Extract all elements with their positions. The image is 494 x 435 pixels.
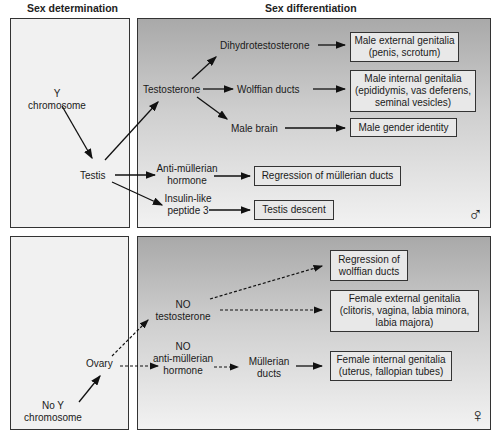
box-testis-descent: Testis descent <box>254 200 334 220</box>
dht-label: Dihydrotestosterone <box>220 40 310 52</box>
no-amh-label: NOanti-müllerianhormone <box>150 341 216 377</box>
box-female-external-genitalia: Female external genitalia(clitoris, vagi… <box>330 290 479 332</box>
box-regression-wolffian: Regression ofwolffian ducts <box>330 250 408 281</box>
wolffian-ducts-label: Wolffian ducts <box>237 84 299 96</box>
box-male-internal-genitalia: Male internal genitalia(epididymis, vas … <box>350 70 476 112</box>
male-brain-label: Male brain <box>231 123 278 135</box>
male-symbol-icon: ♂ <box>468 204 483 224</box>
no-testosterone-label: NOtestosterone <box>150 299 216 323</box>
ovary-label: Ovary <box>86 358 113 370</box>
no-y-chromosome-label: No Ychromosome <box>18 400 88 424</box>
mullerian-ducts-label: Müllerianducts <box>242 356 296 380</box>
testis-label: Testis <box>80 170 106 182</box>
testosterone-label: Testosterone <box>143 84 200 96</box>
box-female-internal-genitalia: Female internal genitalia(uterus, fallop… <box>330 351 452 381</box>
box-male-external-genitalia: Male external genitalia(penis, scrotum) <box>350 32 459 62</box>
y-chromosome-label: Ychromosome <box>22 88 92 112</box>
amh-label: Anti-müllerianhormone <box>152 163 222 187</box>
box-regression-mullerian: Regression of müllerian ducts <box>254 166 401 186</box>
insl3-label: Insulin-likepeptide 3 <box>158 193 218 217</box>
female-symbol-icon: ♀ <box>470 405 485 425</box>
box-male-gender-identity: Male gender identity <box>350 118 457 137</box>
